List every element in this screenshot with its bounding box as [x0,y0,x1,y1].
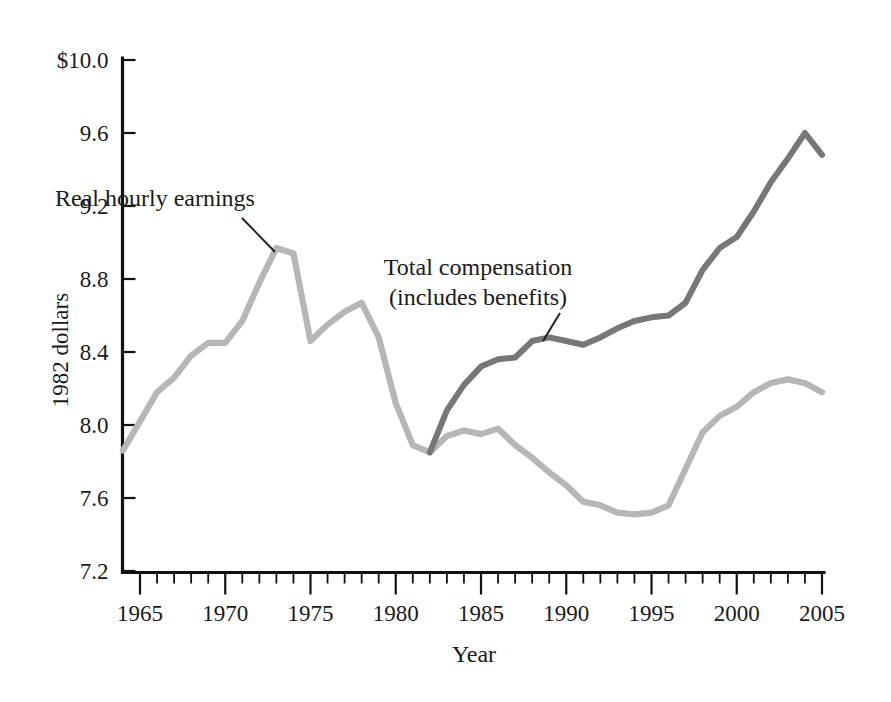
annotations-group: Real hourly earningsTotal compensation(i… [55,185,572,341]
y-tick-label: 8.4 [80,340,109,365]
annotation-leader-real-hourly-earnings [242,218,275,252]
axes-group [123,58,825,573]
x-tick-label: 1970 [202,601,248,626]
x-tick-label: 1995 [629,601,675,626]
x-tick-label: 2000 [714,601,760,626]
x-axis-title: Year [452,641,496,667]
x-tick-label: 1990 [543,601,589,626]
x-axis-tick-labels: 196519701975198019851990199520002005 [117,601,845,626]
y-tick-label: 7.6 [80,486,109,511]
y-tick-label: 7.2 [80,559,109,584]
y-axis-ticks [123,60,136,571]
x-tick-label: 1985 [458,601,504,626]
x-tick-label: 1980 [373,601,419,626]
annotation-label-total-compensation: Total compensation [384,254,572,280]
y-tick-label: $10.0 [57,48,109,73]
y-tick-label: 9.6 [80,121,109,146]
chart-canvas: $10.09.69.28.88.48.07.67.2 1965197019751… [0,0,891,702]
y-axis-title: 1982 dollars [48,293,73,407]
annotation-label-total-compensation: (includes benefits) [389,284,567,310]
y-tick-label: 8.0 [80,413,109,438]
x-tick-label: 2005 [799,601,845,626]
y-tick-label: 8.8 [80,267,109,292]
chart-figure: $10.09.69.28.88.48.07.67.2 1965197019751… [0,0,891,702]
x-tick-label: 1965 [117,601,163,626]
annotation-label-real-hourly-earnings: Real hourly earnings [55,185,255,211]
x-tick-label: 1975 [288,601,334,626]
